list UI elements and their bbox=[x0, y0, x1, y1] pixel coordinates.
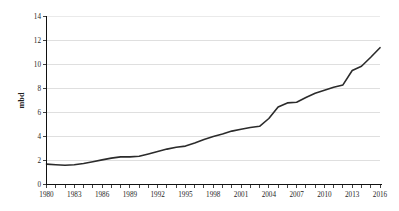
oil-consumption-line-chart: 0246810121419801983198619891992199519982… bbox=[0, 0, 399, 211]
x-tick-label-2007: 2007 bbox=[289, 191, 304, 199]
y-tick-label-8: 8 bbox=[37, 85, 41, 93]
y-tick-label-12: 12 bbox=[34, 37, 42, 45]
x-tick-label-2004: 2004 bbox=[262, 191, 277, 199]
x-tick-label-1998: 1998 bbox=[206, 191, 221, 199]
x-tick-label-2013: 2013 bbox=[345, 191, 360, 199]
x-tick-label-1983: 1983 bbox=[67, 191, 82, 199]
x-tick-label-1989: 1989 bbox=[123, 191, 138, 199]
x-axis-labels: 1980198319861989199219951998200120042007… bbox=[39, 191, 387, 199]
x-tick-label-1992: 1992 bbox=[150, 191, 165, 199]
y-tick-label-0: 0 bbox=[37, 181, 41, 189]
x-tick-label-2016: 2016 bbox=[373, 191, 388, 199]
y-tick-label-10: 10 bbox=[34, 61, 42, 69]
axis-spines bbox=[46, 16, 383, 185]
y-axis-title: mbd bbox=[17, 92, 26, 108]
y-tick-label-14: 14 bbox=[34, 13, 42, 21]
x-tick-label-1995: 1995 bbox=[178, 191, 193, 199]
y-tick-label-4: 4 bbox=[37, 133, 41, 141]
y-axis-ticks: 02468101214 bbox=[34, 13, 47, 189]
x-tick-label-2001: 2001 bbox=[234, 191, 249, 199]
series-line-mbd bbox=[47, 48, 381, 166]
chart-canvas: 0246810121419801983198619891992199519982… bbox=[0, 0, 399, 211]
x-tick-label-1986: 1986 bbox=[95, 191, 110, 199]
y-tick-label-2: 2 bbox=[37, 157, 41, 165]
x-tick-label-1980: 1980 bbox=[39, 191, 54, 199]
x-tick-label-2010: 2010 bbox=[317, 191, 332, 199]
y-tick-label-6: 6 bbox=[37, 109, 41, 117]
series-group bbox=[47, 48, 381, 166]
